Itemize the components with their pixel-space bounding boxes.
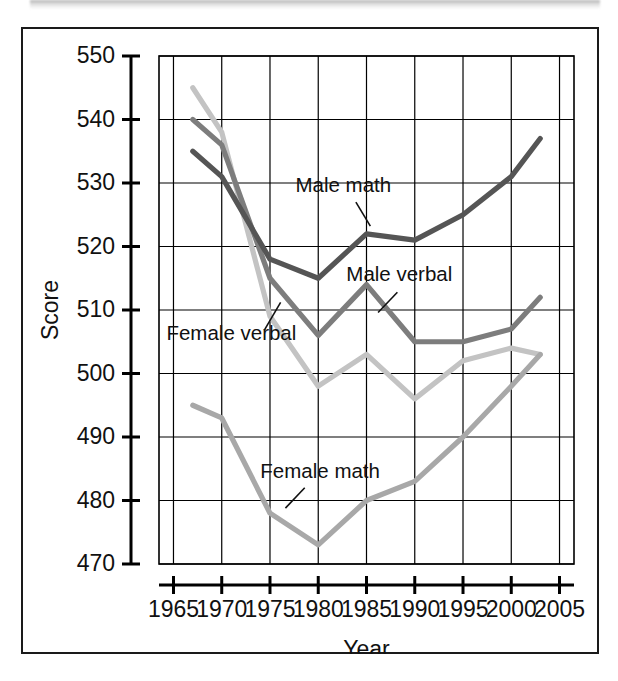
x-axis-tick-label: 1990: [389, 596, 440, 622]
annotation-label-male-verbal: Male verbal: [346, 262, 452, 285]
y-axis-tick-label: 480: [77, 487, 115, 513]
y-axis-tick-label: 540: [77, 106, 115, 132]
x-axis-tick-label: 1980: [293, 596, 344, 622]
x-axis-tick-label: 1975: [244, 596, 295, 622]
annotation-label-female-verbal: Female verbal: [166, 321, 296, 344]
x-axis-tick-label: 1970: [196, 596, 247, 622]
x-axis-tick-label: 1985: [341, 596, 392, 622]
y-axis-tick-label: 500: [77, 360, 115, 386]
annotation-leader-female-math: [285, 488, 304, 508]
line-chart: 4704804905005105205305405501965197019751…: [21, 27, 599, 654]
y-axis-tick-label: 490: [77, 423, 115, 449]
y-axis-tick-label: 530: [77, 169, 115, 195]
y-axis-title: Score: [37, 280, 63, 340]
y-axis-tick-label: 550: [77, 42, 115, 68]
x-axis-tick-label: 1995: [437, 596, 488, 622]
figure-page: 4704804905005105205305405501965197019751…: [0, 0, 618, 681]
x-axis-tick-label: 2000: [486, 596, 537, 622]
x-axis-tick-label: 1965: [148, 596, 199, 622]
annotation-label-male-math: Male math: [295, 173, 391, 196]
scan-smudge: [30, 0, 600, 9]
x-axis-tick-label: 2005: [534, 596, 585, 622]
annotation-leader-male-math: [356, 202, 370, 226]
annotation-label-female-math: Female math: [260, 459, 380, 482]
y-axis-tick-label: 510: [77, 296, 115, 322]
y-axis-tick-label: 520: [77, 233, 115, 259]
x-axis-title: Year: [343, 636, 390, 654]
y-axis-tick-label: 470: [77, 550, 115, 576]
